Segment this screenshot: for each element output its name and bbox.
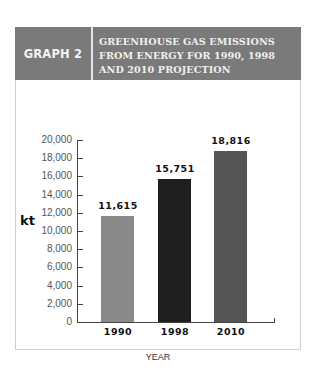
y-tick-mark	[77, 249, 83, 250]
bar-1990	[101, 216, 134, 322]
chart-title: GREENHOUSE GAS EMISSIONS FROM ENERGY FOR…	[93, 27, 301, 80]
bar-value-label: 18,816	[201, 135, 261, 146]
y-tick-mark	[77, 231, 83, 232]
y-tick-label: 10,000	[20, 225, 72, 237]
y-tick-label: 4,000	[20, 280, 72, 292]
y-tick-mark	[77, 140, 83, 141]
y-tick-label: 6,000	[20, 261, 72, 273]
y-tick-mark	[77, 158, 83, 159]
y-tick-mark	[77, 176, 83, 177]
y-tick-mark	[77, 286, 83, 287]
y-tick-label: 8,000	[20, 243, 72, 255]
y-tick-mark	[77, 267, 83, 268]
bar-value-label: 15,751	[145, 163, 205, 174]
x-axis-line	[77, 322, 275, 323]
y-tick-mark	[77, 195, 83, 196]
y-tick-label: 16,000	[20, 170, 72, 182]
y-tick-label: 14,000	[20, 189, 72, 201]
bar-value-label: 11,615	[88, 200, 148, 211]
y-tick-label: 18,000	[20, 152, 72, 164]
y-tick-label: 20,000	[20, 134, 72, 146]
y-tick-mark	[77, 213, 83, 214]
x-axis-title: YEAR	[128, 352, 188, 362]
y-tick-label: 12,000	[20, 207, 72, 219]
chart-header: GRAPH 2 GREENHOUSE GAS EMISSIONS FROM EN…	[15, 27, 301, 80]
x-tick-label: 2010	[201, 326, 261, 337]
y-tick-label: 0	[20, 316, 72, 328]
x-tick-label: 1998	[145, 326, 205, 337]
graph-number-label: GRAPH 2	[15, 27, 91, 80]
y-tick-mark	[77, 304, 83, 305]
x-tick-label: 1990	[88, 326, 148, 337]
y-tick-mark	[77, 322, 83, 323]
bar-1998	[158, 179, 191, 322]
x-axis-end-tick	[274, 318, 275, 323]
bar-2010	[214, 151, 247, 322]
y-tick-label: 2,000	[20, 298, 72, 310]
